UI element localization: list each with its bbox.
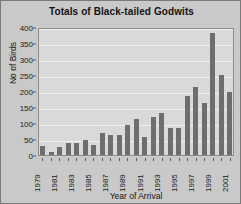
x-tick-slot: 2001 [225,158,234,192]
y-tick-label: 150 [20,104,33,113]
x-tick-slot: 1997 [191,158,200,192]
x-tick-mark [59,158,60,161]
y-tick-mark [33,108,36,109]
x-tick-slot: 1993 [157,158,166,192]
y-tick-mark [33,76,36,77]
x-tick-mark [136,158,137,161]
x-tick-label: 2001 [221,174,230,192]
bar [100,133,105,155]
y-tick-label: 300 [20,56,33,65]
x-tick-slot: 1999 [208,158,217,192]
chart-title: Totals of Black-tailed Godwits [1,6,241,17]
x-tick-slot: 1987 [106,158,115,192]
bar [193,87,198,155]
y-axis: 050100150200250300350400 [1,28,36,156]
x-tick-mark [127,158,128,161]
bar [202,103,207,155]
x-tick-mark [196,158,197,161]
y-tick-label: 400 [20,24,33,33]
x-tick-slot: 1991 [140,158,149,192]
x-tick-mark [119,158,120,161]
x-axis: 1979198119831985198719891991199319951997… [38,158,234,192]
chart-figure: Totals of Black-tailed Godwits 050100150… [0,0,241,204]
bar-series [39,29,233,155]
bar [125,125,130,155]
bar [176,128,181,155]
x-tick-mark [187,158,188,161]
x-tick-mark [230,158,231,161]
x-tick-label: 1995 [170,174,179,192]
x-tick-label: 1985 [84,174,93,192]
x-tick-mark [68,158,69,161]
x-tick-mark [76,158,77,161]
x-tick-mark [42,158,43,161]
x-tick-slot: 1995 [174,158,183,192]
x-tick-mark [145,158,146,161]
bar [66,143,71,155]
x-tick-mark [204,158,205,161]
x-tick-label: 1991 [136,174,145,192]
x-tick-slot: 1979 [38,158,47,192]
y-tick-mark [33,60,36,61]
x-tick-label: 1979 [33,174,42,192]
bar [185,96,190,155]
x-axis-title: Year of Arrival [38,191,234,201]
x-tick-mark [221,158,222,161]
bar [40,146,45,155]
x-tick-mark [93,158,94,161]
x-tick-label: 1983 [67,174,76,192]
x-tick-label: 1987 [101,174,110,192]
x-tick-label: 1999 [204,174,213,192]
x-tick-label: 1993 [153,174,162,192]
x-tick-mark [162,158,163,161]
bar [159,113,164,155]
bar [91,145,96,155]
x-tick-label: 1997 [187,174,196,192]
y-tick-mark [33,156,36,157]
bar [142,137,147,155]
x-tick-mark [213,158,214,161]
bar [210,33,215,155]
y-tick-mark [33,124,36,125]
x-tick-mark [102,158,103,161]
plot-area [38,28,234,156]
bar [108,135,113,155]
bar [168,128,173,155]
y-tick-mark [33,44,36,45]
bar [57,147,62,155]
y-tick-label: 350 [20,40,33,49]
bar [117,135,122,155]
y-tick-mark [33,28,36,29]
bar [74,143,79,155]
y-tick-label: 50 [24,136,33,145]
bar [227,92,232,155]
x-tick-slot: 1981 [55,158,64,192]
x-tick-slot: 1985 [89,158,98,192]
x-tick-label: 1989 [118,174,127,192]
y-tick-label: 200 [20,88,33,97]
y-tick-mark [33,140,36,141]
y-tick-label: 100 [20,120,33,129]
x-tick-mark [110,158,111,161]
y-tick-mark [33,92,36,93]
bar [219,75,224,155]
x-tick-mark [85,158,86,161]
y-tick-label: 250 [20,72,33,81]
x-tick-mark [170,158,171,161]
x-tick-mark [51,158,52,161]
x-tick-label: 1981 [50,174,59,192]
bar [151,117,156,155]
bar [134,119,139,155]
bar [49,152,54,155]
x-tick-mark [153,158,154,161]
x-tick-slot: 1983 [72,158,81,192]
y-axis-title: No of Birds [8,28,18,98]
x-tick-slot: 1989 [123,158,132,192]
bar [83,140,88,155]
x-tick-mark [179,158,180,161]
